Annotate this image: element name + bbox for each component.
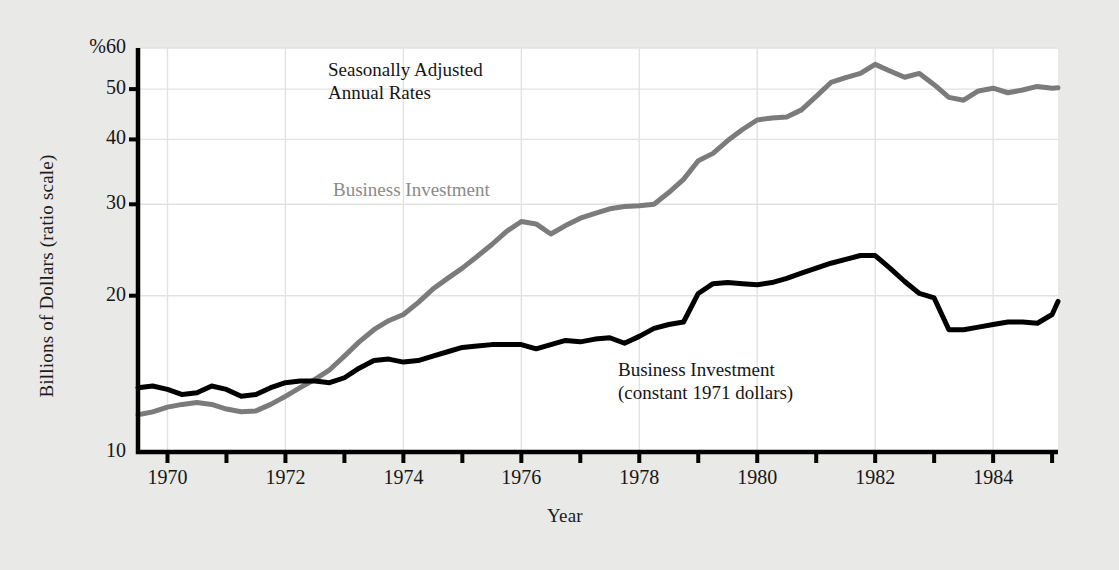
x-tick-label-1974: 1974 <box>353 466 453 489</box>
plot-background <box>138 48 1058 452</box>
x-tick-label-1970: 1970 <box>117 466 217 489</box>
x-tick-label-1976: 1976 <box>471 466 571 489</box>
x-tick-label-1982: 1982 <box>825 466 925 489</box>
x-tick-label-1984: 1984 <box>943 466 1043 489</box>
y-tick-label-60: %60 <box>26 35 126 58</box>
chart-figure: %605040302010197019721974197619781980198… <box>0 0 1119 570</box>
y-axis-title: Billions of Dollars (ratio scale) <box>36 111 58 441</box>
business-investment-nominal-label: Business Investment <box>333 178 490 201</box>
plot-area-background <box>138 48 1058 452</box>
seasonally-adjusted-note: Seasonally Adjusted Annual Rates <box>328 58 483 104</box>
x-tick-label-1978: 1978 <box>589 466 689 489</box>
x-axis-title: Year <box>465 505 665 527</box>
x-tick-label-1980: 1980 <box>707 466 807 489</box>
x-tick-label-1972: 1972 <box>235 466 335 489</box>
y-tick-label-50: 50 <box>26 76 126 99</box>
business-investment-constant-label: Business Investment (constant 1971 dolla… <box>618 358 793 404</box>
y-tick-label-10: 10 <box>26 439 126 462</box>
